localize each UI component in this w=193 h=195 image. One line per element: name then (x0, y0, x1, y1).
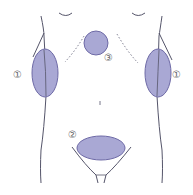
label-region-2: ② (68, 130, 77, 140)
left-rib-dotted-line (65, 36, 84, 62)
label-region-1-right: ① (172, 70, 181, 80)
left-collarbone (59, 13, 72, 16)
lower-abdomen-region (77, 136, 125, 160)
right-collarbone (132, 13, 145, 16)
left-flank-region (32, 49, 58, 97)
label-region-3: ③ (104, 53, 113, 63)
right-body-outline (157, 16, 163, 183)
label-region-1-left: ① (13, 70, 22, 80)
right-rib-dotted-line (117, 34, 138, 63)
left-body-outline (41, 16, 47, 183)
body-diagram (0, 0, 193, 195)
